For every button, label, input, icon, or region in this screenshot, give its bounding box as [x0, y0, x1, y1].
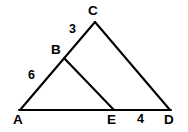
geometry-figure: A B C D E 6 3 4 [0, 0, 188, 132]
measure-label-ed: 4 [137, 113, 144, 126]
segment-ac [20, 22, 95, 110]
measure-label-ab: 6 [28, 69, 35, 82]
vertex-label-c: C [88, 4, 98, 18]
vertex-label-a: A [13, 113, 23, 127]
figure-canvas [0, 0, 188, 132]
vertex-label-d: D [164, 113, 174, 127]
measure-label-bc: 3 [69, 23, 76, 36]
vertex-label-b: B [51, 43, 61, 57]
segment-be [64, 58, 114, 110]
segment-cd [95, 22, 170, 110]
vertex-label-e: E [107, 113, 116, 127]
